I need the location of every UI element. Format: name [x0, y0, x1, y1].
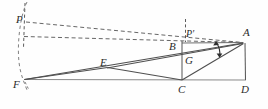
- segment-A-D: [245, 43, 246, 80]
- segment-F-E: [25, 68, 108, 80]
- point-label-D: D: [241, 84, 249, 95]
- point-label-B: B: [169, 41, 176, 52]
- point-label-Pprime: P′: [186, 28, 194, 39]
- point-label-C: C: [178, 84, 185, 95]
- segment-F-D-base: [24, 80, 246, 81]
- point-label-G: G: [185, 55, 193, 66]
- dashed-tick-below-F: [25, 82, 29, 90]
- segment-B-A: [182, 43, 244, 44]
- segment-F-A: [25, 43, 244, 80]
- point-label-P: P: [16, 14, 23, 25]
- segment-E-C: [108, 68, 183, 81]
- point-label-F: F: [13, 79, 20, 90]
- point-label-E: E: [100, 57, 107, 68]
- geometry-figure: P P′ A B G E F C D: [0, 0, 268, 109]
- figure-canvas: [0, 0, 268, 109]
- point-label-A: A: [243, 27, 250, 38]
- angle-mark-at-A: [213, 41, 222, 58]
